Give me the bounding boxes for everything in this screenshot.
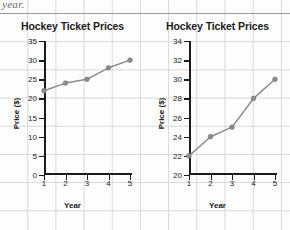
chart-title: Hockey Ticket Prices (145, 20, 290, 32)
data-series (44, 41, 130, 175)
x-axis-tick-label: 1 (187, 179, 191, 188)
data-point-marker (230, 125, 235, 130)
x-axis-label: Year (0, 201, 145, 210)
y-axis-tick-label: 34 (173, 37, 182, 46)
data-point-marker (187, 153, 192, 158)
data-series (189, 41, 275, 175)
data-point-marker (273, 77, 278, 82)
y-axis-tick-label: 0 (33, 171, 37, 180)
y-axis-tick-label: 30 (28, 56, 37, 65)
x-axis-tick-label: 3 (85, 179, 89, 188)
y-axis-tick-label: 32 (173, 56, 182, 65)
x-axis-tick-label: 2 (63, 179, 67, 188)
x-axis-tick-label: 2 (208, 179, 212, 188)
chart-title: Hockey Ticket Prices (0, 20, 145, 32)
y-axis-tick-label: 20 (28, 94, 37, 103)
data-point-marker (208, 134, 213, 139)
x-axis-tick-label: 4 (106, 179, 110, 188)
data-point-marker (251, 96, 256, 101)
data-point-marker (85, 77, 90, 82)
y-axis-tick-label: 35 (28, 37, 37, 46)
y-axis-tick-label: 5 (33, 151, 37, 160)
y-axis-tick-label: 24 (173, 132, 182, 141)
y-axis-tick-label: 28 (173, 94, 182, 103)
y-axis-tick-label: 10 (28, 132, 37, 141)
y-axis-tick-label: 26 (173, 113, 182, 122)
plot-area: 202224262830323412345 (189, 41, 275, 175)
x-axis-tick-label: 5 (273, 179, 277, 188)
x-axis-label: Year (145, 201, 290, 210)
y-axis-tick-label: 22 (173, 151, 182, 160)
y-axis-tick-label: 20 (173, 171, 182, 180)
plot-area: 0510152025303512345 (44, 41, 130, 175)
y-axis-tick-label: 25 (28, 75, 37, 84)
y-axis-label: Price ($) (157, 84, 166, 144)
data-point-marker (63, 81, 68, 86)
x-axis-tick-label: 1 (42, 179, 46, 188)
chart-right: Hockey Ticket Prices Price ($) 202224262… (145, 13, 290, 220)
data-point-marker (42, 88, 47, 93)
data-point-marker (106, 65, 111, 70)
y-axis-label: Price ($) (12, 84, 21, 144)
y-axis-tick-label: 30 (173, 75, 182, 84)
series-line (189, 79, 275, 156)
series-line (44, 60, 130, 91)
data-point-marker (128, 58, 133, 63)
clipped-caption-text: year. (2, 0, 25, 10)
x-axis-tick-label: 4 (251, 179, 255, 188)
y-axis-tick-label: 15 (28, 113, 37, 122)
charts-container: Hockey Ticket Prices Price ($) 051015202… (0, 13, 290, 220)
x-axis-tick-label: 3 (230, 179, 234, 188)
chart-left: Hockey Ticket Prices Price ($) 051015202… (0, 13, 145, 220)
x-axis-tick-label: 5 (128, 179, 132, 188)
